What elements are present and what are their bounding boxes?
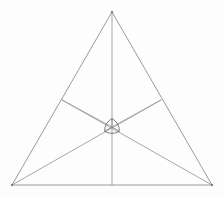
triangle-diagram [0,0,224,198]
vertex-bottom-right-dot [211,184,213,186]
vertex-bottom-left-dot [11,184,13,186]
cevian-group [12,12,212,185]
vertex-apex-dot [111,11,113,13]
spoke-centroid-to-left-side [62,100,112,127]
spoke-group [62,100,161,127]
figure-canvas [0,0,224,198]
triangle-left-edge [12,12,112,185]
spoke-centroid-to-right-side [112,100,161,127]
reuleaux-inner-spoke-left [105,127,112,131]
triangle-right-edge [112,12,212,185]
